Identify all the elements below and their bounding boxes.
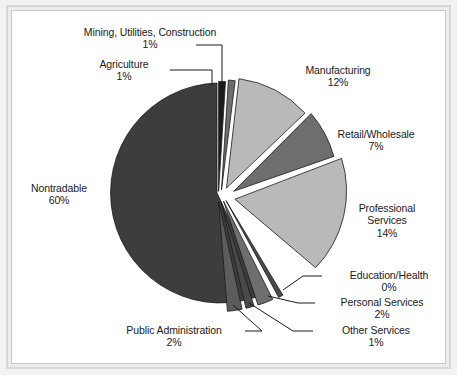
pie-label-nontradable-name: Nontradable — [31, 182, 87, 194]
pie-label-retail-percent: 7% — [313, 140, 439, 152]
pie-label-manufacturing-name: Manufacturing — [305, 64, 370, 76]
pie-label-publicadmin-percent: 2% — [108, 336, 240, 348]
pie-label-personal-percent: 2% — [320, 308, 444, 320]
leader-line-personal-services — [268, 296, 315, 303]
pie-label-public-administration: Public Administration 2% — [108, 324, 240, 349]
pie-label-personal-services: Personal Services 2% — [320, 296, 444, 321]
pie-label-nontradable-percent: 60% — [18, 194, 100, 206]
pie-label-manufacturing: Manufacturing 12% — [283, 64, 393, 89]
pie-label-manufacturing-percent: 12% — [283, 76, 393, 88]
pie-label-professional-name2: Services — [335, 214, 439, 226]
pie-label-other-percent: 1% — [318, 336, 434, 348]
pie-label-other-name: Other Services — [342, 324, 410, 336]
pie-label-agriculture-name: Agriculture — [99, 58, 148, 70]
pie-label-professional-name: Professional — [359, 202, 416, 214]
pie-label-mining-name: Mining, Utilities, Construction — [84, 26, 216, 38]
pie-label-professional-percent: 14% — [335, 227, 439, 239]
pie-label-professional-services: Professional Services 14% — [335, 202, 439, 239]
leader-line-education-health — [283, 276, 322, 290]
pie-label-retail-wholesale: Retail/Wholesale 7% — [313, 128, 439, 153]
pie-label-agriculture: Agriculture 1% — [76, 58, 172, 83]
pie-label-education-percent: 0% — [325, 281, 453, 293]
leader-line-agriculture — [170, 70, 212, 85]
pie-label-publicadmin-name: Public Administration — [126, 324, 221, 336]
pie-label-education-health: Education/Health 0% — [325, 269, 453, 294]
pie-label-mining-percent: 1% — [35, 38, 265, 50]
pie-label-education-name: Education/Health — [350, 269, 428, 281]
pie-label-nontradable: Nontradable 60% — [18, 182, 100, 207]
pie-label-mining-utilities-construction: Mining, Utilities, Construction 1% — [35, 26, 265, 51]
chart-page: Mining, Utilities, Construction 1% Agric… — [0, 0, 457, 375]
pie-label-other-services: Other Services 1% — [318, 324, 434, 349]
pie-label-agriculture-percent: 1% — [76, 70, 172, 82]
pie-label-personal-name: Personal Services — [341, 296, 424, 308]
leader-line-other-services — [249, 303, 313, 331]
pie-label-retail-name: Retail/Wholesale — [337, 128, 414, 140]
